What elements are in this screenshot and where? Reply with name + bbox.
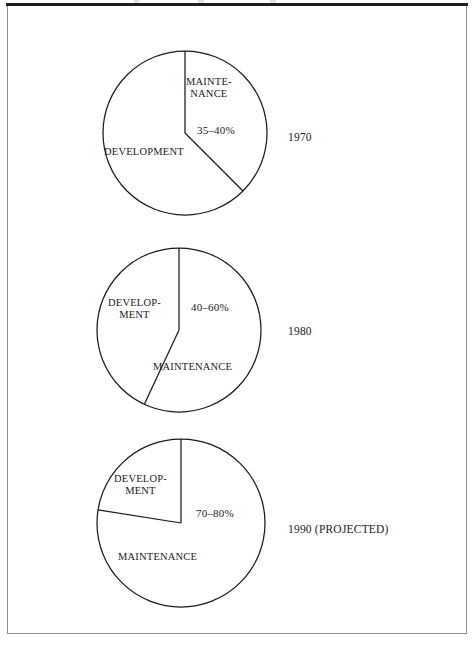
- pie-1990-maintenance-label: MAINTENANCE: [118, 551, 197, 563]
- pie-1970-maintenance-label: MAINTE- NANCE: [186, 76, 232, 100]
- pie-1970-development-label: DEVELOPMENT: [104, 146, 184, 158]
- pie-chart-stage: MAINTE- NANCE 35–40% DEVELOPMENT 1970 DE…: [0, 0, 474, 645]
- pie-1970-year-label: 1970: [288, 131, 312, 144]
- pie-1980-maintenance-label: MAINTENANCE: [153, 361, 232, 373]
- pie-1970-percent-label: 35–40%: [197, 124, 235, 136]
- pie-1980-development-label: DEVELOP- MENT: [108, 297, 161, 321]
- pie-1970: [103, 51, 267, 215]
- pie-1990-percent-label: 70–80%: [196, 507, 234, 519]
- pie-1980: [97, 248, 261, 412]
- pie-1990: [97, 439, 265, 607]
- pie-1980-year-label: 1980: [288, 325, 312, 338]
- pie-1990-development-label: DEVELOP- MENT: [114, 473, 167, 497]
- pie-1990-year-label: 1990 (PROJECTED): [288, 523, 389, 536]
- figure-root: MAINTE- NANCE 35–40% DEVELOPMENT 1970 DE…: [0, 0, 474, 645]
- pie-chart-vector-layer: [0, 0, 474, 645]
- pie-1980-percent-label: 40–60%: [191, 301, 229, 313]
